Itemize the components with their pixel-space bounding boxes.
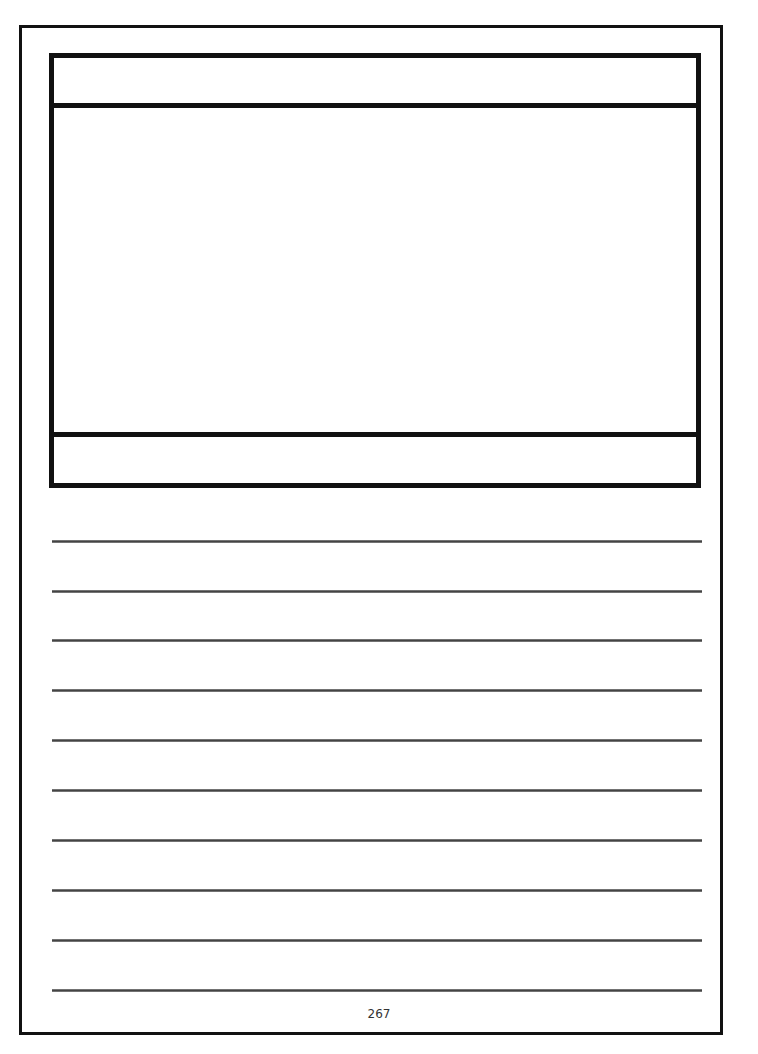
- title-band-divider: [54, 103, 696, 108]
- writing-line: [52, 839, 702, 842]
- writing-line: [52, 689, 702, 692]
- writing-line: [52, 590, 702, 593]
- writing-line: [52, 989, 702, 992]
- writing-line: [52, 939, 702, 942]
- writing-line: [52, 889, 702, 892]
- writing-line: [52, 540, 702, 543]
- caption-band-divider: [54, 432, 696, 437]
- writing-line: [52, 639, 702, 642]
- picture-frame: [49, 53, 701, 488]
- writing-line: [52, 789, 702, 792]
- page-number: 267: [0, 1007, 758, 1021]
- writing-line: [52, 739, 702, 742]
